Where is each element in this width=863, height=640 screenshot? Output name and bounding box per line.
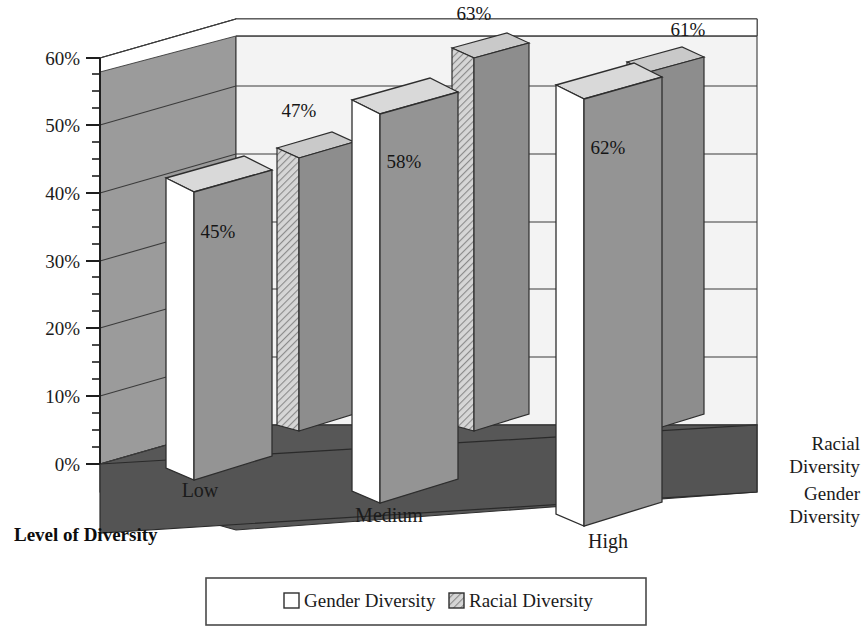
depth-axis-label-gender-line1: Gender — [804, 483, 861, 504]
bar-side-face — [194, 170, 272, 480]
bar-low-gender[interactable]: 45% — [166, 156, 272, 480]
depth-axis-label-racial-line1: Racial — [811, 433, 860, 454]
y-tick-label-30: 30% — [45, 251, 80, 272]
bar-value-label: 58% — [387, 151, 422, 172]
legend: Gender Diversity Racial Diversity — [206, 578, 646, 625]
legend-label-racial: Racial Diversity — [469, 590, 593, 611]
legend-label-gender: Gender Diversity — [304, 590, 436, 611]
bar-value-label-low-racial: 47% — [282, 100, 317, 121]
bar-high-gender[interactable]: 62% — [556, 63, 662, 526]
bar-value-label: 62% — [591, 137, 626, 158]
legend-item-gender[interactable]: Gender Diversity — [284, 590, 436, 611]
x-axis-title: Level of Diversity — [14, 524, 158, 545]
y-tick-label-40: 40% — [45, 183, 80, 204]
legend-swatch-racial-icon — [449, 593, 464, 608]
y-tick-label-20: 20% — [45, 318, 80, 339]
bar-value-label-medium-racial: 63% — [457, 3, 492, 24]
bar-front-face — [556, 85, 584, 526]
bar-side-face — [299, 142, 354, 431]
chart-canvas: 0% 10% 20% 30% 40% 50% 60% 45% 58% — [0, 0, 863, 640]
bar-front-face — [166, 178, 194, 480]
legend-swatch-gender-icon — [284, 593, 299, 608]
legend-item-racial[interactable]: Racial Diversity — [449, 590, 593, 611]
y-tick-label-60: 60% — [45, 48, 80, 69]
x-category-label-low: Low — [182, 479, 219, 501]
depth-axis-label-racial-line2: Diversity — [789, 456, 860, 477]
bar-low-racial[interactable] — [277, 132, 354, 431]
bar-medium-racial[interactable] — [452, 33, 529, 431]
bar-side-face — [474, 43, 529, 431]
y-tick-label-10: 10% — [45, 386, 80, 407]
bar-value-label-high-racial: 61% — [671, 19, 706, 40]
bar-chart-3d: 0% 10% 20% 30% 40% 50% 60% 45% 58% — [0, 0, 863, 640]
x-category-label-high: High — [588, 530, 628, 553]
bar-medium-gender[interactable]: 58% — [352, 78, 458, 503]
bar-front-face — [277, 148, 299, 431]
bar-value-label: 45% — [201, 221, 236, 242]
y-tick-label-50: 50% — [45, 115, 80, 136]
x-category-label-medium: Medium — [355, 504, 423, 526]
y-tick-label-0: 0% — [55, 454, 81, 475]
depth-axis-label-gender-line2: Diversity — [789, 506, 860, 527]
bar-front-face — [352, 100, 380, 503]
